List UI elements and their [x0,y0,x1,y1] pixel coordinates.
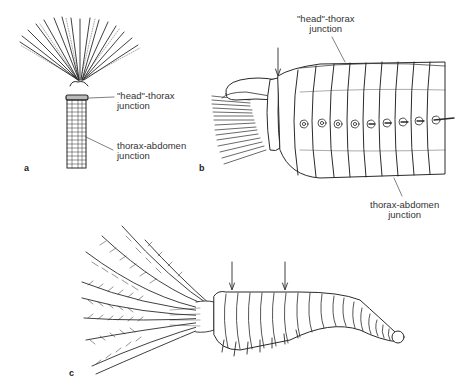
label-line: junction [297,24,354,34]
panel-label-b: b [199,163,205,173]
illustration-canvas [0,0,467,390]
label-line: junction [117,101,174,111]
panel-b-head-thorax-label: "head"-thorax junction [297,14,354,34]
panel-label-a: a [24,163,29,173]
panel-label-c: c [69,368,74,378]
panel-b-thorax-abdomen-label: thorax-abdomen junction [370,200,439,220]
figure: "head"-thorax junction thorax-abdomen ju… [0,0,467,390]
panel-c-drawing [82,226,404,374]
label-line: junction [370,210,439,220]
panel-a-head-thorax-label: "head"-thorax junction [117,91,174,111]
panel-a-thorax-abdomen-label: thorax-abdomen junction [117,141,186,161]
panel-b-drawing [212,37,454,196]
label-line: junction [117,151,186,161]
